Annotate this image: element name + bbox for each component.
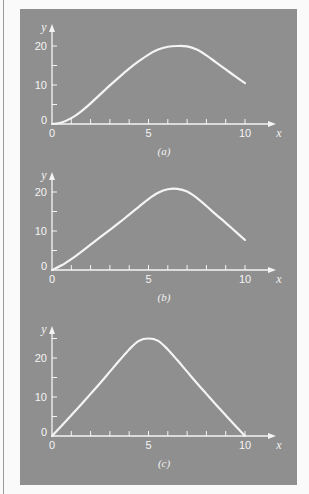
x-tick-label: 5 xyxy=(145,273,151,285)
y-axis-arrow-icon xyxy=(49,326,55,334)
data-curve xyxy=(52,339,245,437)
y-tick-label: 20 xyxy=(35,352,47,364)
y-tick-label: 10 xyxy=(35,225,47,237)
chart-caption: (b) xyxy=(158,291,171,304)
x-tick-label: 10 xyxy=(239,127,251,139)
y-axis-label: y xyxy=(40,168,47,182)
x-axis-label: x xyxy=(275,438,282,452)
y-tick-label: 0 xyxy=(41,114,47,126)
x-tick-label: 10 xyxy=(239,273,251,285)
y-axis-label: y xyxy=(40,20,47,34)
x-axis-arrow-icon xyxy=(268,121,276,127)
y-tick-label: 0 xyxy=(41,260,47,272)
y-axis-label: y xyxy=(40,322,47,336)
chart-c: 051001020xy(c) xyxy=(35,322,283,470)
x-axis-label: x xyxy=(275,272,282,286)
x-tick-label: 0 xyxy=(49,439,55,451)
x-axis-arrow-icon xyxy=(268,267,276,273)
chart-a: 051001020xy(a) xyxy=(35,20,283,158)
y-tick-label: 20 xyxy=(35,186,47,198)
y-axis-arrow-icon xyxy=(49,172,55,180)
y-tick-label: 10 xyxy=(35,391,47,403)
x-axis-label: x xyxy=(275,126,282,140)
data-curve xyxy=(52,46,245,124)
y-tick-label: 0 xyxy=(41,426,47,438)
data-curve xyxy=(52,189,245,270)
y-axis-arrow-icon xyxy=(49,24,55,32)
x-tick-label: 5 xyxy=(145,127,151,139)
x-tick-label: 5 xyxy=(145,439,151,451)
y-tick-label: 10 xyxy=(35,79,47,91)
chart-caption: (a) xyxy=(158,145,171,158)
y-tick-label: 20 xyxy=(35,40,47,52)
x-tick-label: 10 xyxy=(239,439,251,451)
x-axis-arrow-icon xyxy=(268,433,276,439)
chart-caption: (c) xyxy=(158,457,171,470)
chart-b: 051001020xy(b) xyxy=(35,168,283,304)
charts-figure: 051001020xy(a) 051001020xy(b) 051001020x… xyxy=(0,0,309,494)
x-tick-label: 0 xyxy=(49,273,55,285)
x-tick-label: 0 xyxy=(49,127,55,139)
